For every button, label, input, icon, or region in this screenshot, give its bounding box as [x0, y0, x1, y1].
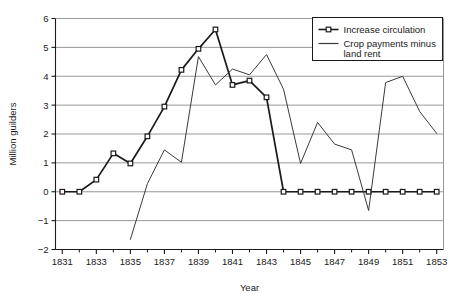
data-point-marker	[128, 161, 133, 166]
x-axis-title: Year	[240, 282, 259, 293]
x-tick-label: 1833	[86, 256, 107, 267]
y-tick-label: 1	[43, 157, 48, 168]
y-tick-label: 6	[43, 13, 48, 24]
y-tick-label: −2	[38, 244, 49, 255]
y-axis-ticks: −2−10123456	[38, 13, 56, 255]
data-point-marker	[179, 68, 184, 73]
data-point-marker	[230, 83, 235, 88]
chart-figure: −2−1012345618311833183518371839184118431…	[0, 0, 465, 294]
data-point-marker	[162, 104, 167, 109]
x-tick-label: 1831	[52, 256, 73, 267]
y-tick-label: −1	[38, 215, 49, 226]
chart-legend: Increase circulationCrop payments minusl…	[313, 18, 443, 61]
x-tick-label: 1851	[392, 256, 413, 267]
data-point-marker	[247, 78, 252, 83]
line-chart: −2−1012345618311833183518371839184118431…	[0, 0, 465, 294]
y-tick-label: 3	[43, 100, 48, 111]
data-point-marker	[145, 134, 150, 139]
y-tick-label: 2	[43, 128, 48, 139]
data-point-marker	[281, 189, 286, 194]
x-tick-label: 1853	[426, 256, 447, 267]
data-point-marker	[417, 189, 422, 194]
data-point-marker	[366, 189, 371, 194]
data-point-marker	[349, 189, 354, 194]
x-tick-label: 1845	[290, 256, 311, 267]
legend-swatch-marker-0	[326, 27, 331, 32]
x-tick-label: 1847	[324, 256, 345, 267]
data-point-marker	[315, 189, 320, 194]
x-tick-label: 1837	[154, 256, 175, 267]
y-tick-label: 4	[43, 71, 48, 82]
data-point-marker	[400, 189, 405, 194]
data-point-marker	[213, 27, 218, 32]
x-tick-label: 1839	[188, 256, 209, 267]
data-point-marker	[298, 189, 303, 194]
y-axis-title: Million guilders	[7, 102, 18, 165]
data-point-marker	[264, 95, 269, 100]
legend-label-0: Increase circulation	[344, 24, 426, 35]
data-point-marker	[77, 189, 82, 194]
x-tick-label: 1841	[222, 256, 243, 267]
data-point-marker	[332, 189, 337, 194]
x-axis-ticks: 1831183318351837183918411843184518471849…	[52, 250, 448, 267]
data-point-marker	[94, 177, 99, 182]
data-point-marker	[111, 151, 116, 156]
x-tick-label: 1849	[358, 256, 379, 267]
data-point-marker	[383, 189, 388, 194]
y-tick-label: 0	[43, 186, 48, 197]
x-tick-label: 1835	[120, 256, 141, 267]
x-tick-label: 1843	[256, 256, 277, 267]
legend-label-1-cont: land rent	[344, 48, 381, 59]
data-point-marker	[434, 189, 439, 194]
data-point-marker	[196, 47, 201, 52]
y-tick-label: 5	[43, 42, 48, 53]
data-point-marker	[60, 189, 65, 194]
